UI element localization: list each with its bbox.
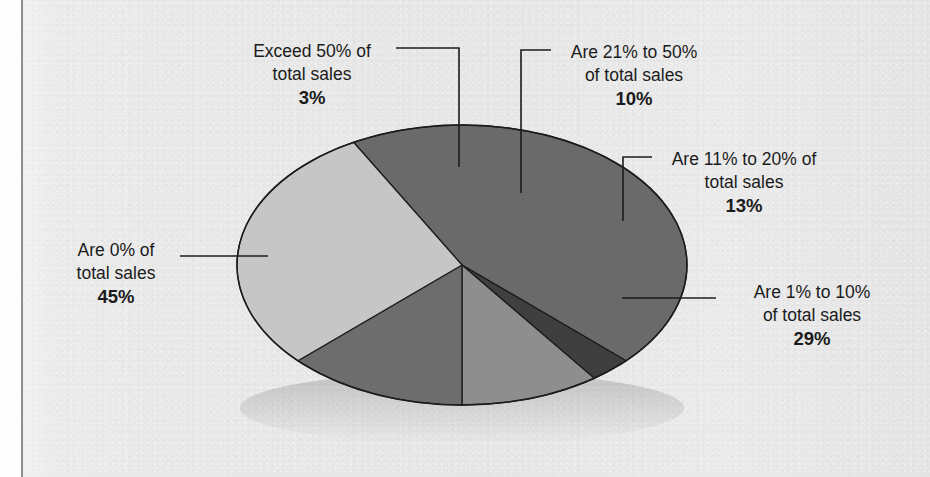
- label-zero-line1: Are 0% of: [52, 239, 180, 262]
- label-range21to50-line2: of total sales: [551, 64, 717, 87]
- label-range11to20-line2: total sales: [653, 171, 835, 194]
- label-range11to20-value: 13%: [653, 194, 835, 217]
- label-range21to50: Are 21% to 50% of total sales 10%: [551, 41, 717, 110]
- label-range1to10-value: 29%: [728, 327, 896, 350]
- figure-canvas: Exceed 50% of total sales 3% Are 21% to …: [0, 0, 930, 477]
- label-exceed50-line2: total sales: [228, 63, 396, 86]
- label-range1to10-line2: of total sales: [728, 304, 896, 327]
- label-zero-value: 45%: [52, 285, 180, 308]
- label-zero-line2: total sales: [52, 262, 180, 285]
- label-range11to20: Are 11% to 20% of total sales 13%: [653, 148, 835, 217]
- label-exceed50-line1: Exceed 50% of: [228, 40, 396, 63]
- label-range1to10-line1: Are 1% to 10%: [728, 281, 896, 304]
- label-range21to50-value: 10%: [551, 87, 717, 110]
- label-exceed50-value: 3%: [228, 86, 396, 109]
- label-exceed50: Exceed 50% of total sales 3%: [228, 40, 396, 109]
- label-zero: Are 0% of total sales 45%: [52, 239, 180, 308]
- label-range11to20-line1: Are 11% to 20% of: [653, 148, 835, 171]
- label-range1to10: Are 1% to 10% of total sales 29%: [728, 281, 896, 350]
- label-range21to50-line1: Are 21% to 50%: [551, 41, 717, 64]
